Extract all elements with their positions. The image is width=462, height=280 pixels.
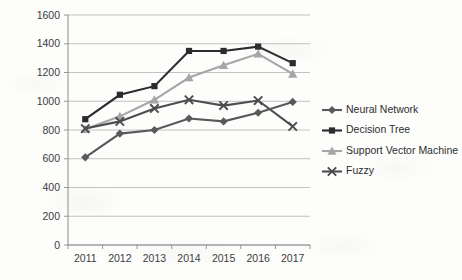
- square-marker-icon: [186, 48, 192, 54]
- diamond-marker-icon: [289, 98, 297, 106]
- square-marker-icon: [82, 116, 88, 122]
- diamond-marker-icon: [150, 126, 158, 134]
- x-axis-tick-label: 2011: [74, 252, 97, 264]
- x-axis-tick-label: 2015: [212, 252, 236, 264]
- legend-item-fuzzy[interactable]: Fuzzy: [322, 164, 375, 176]
- triangle-marker-icon: [150, 95, 159, 103]
- chart-legend: Neural NetworkDecision TreeSupport Vecto…: [322, 103, 458, 177]
- square-marker-icon: [151, 83, 157, 89]
- diamond-marker-icon: [219, 117, 227, 125]
- y-axis-tick-label: 400: [42, 181, 60, 193]
- y-axis-tick-label: 200: [42, 210, 60, 222]
- chart-canvas: 02004006008001000120014001600 2011201220…: [0, 0, 462, 280]
- diamond-marker-icon: [185, 114, 193, 122]
- x-axis-tick-labels: 2011201220132014201520162017: [74, 252, 305, 264]
- square-marker-icon: [220, 48, 226, 54]
- legend-label: Neural Network: [346, 103, 419, 115]
- y-axis-tick-label: 1400: [37, 37, 61, 49]
- square-marker-icon: [290, 60, 296, 66]
- x-axis-tick-label: 2016: [246, 252, 270, 264]
- triangle-marker-icon: [288, 69, 297, 77]
- y-axis-tick-label: 800: [42, 124, 60, 136]
- legend-label: Decision Tree: [346, 123, 410, 135]
- square-marker-icon: [329, 127, 335, 133]
- legend-item-neural-network[interactable]: Neural Network: [322, 103, 419, 115]
- x-axis-tick-label: 2014: [177, 252, 201, 264]
- y-axis-tick-label: 1000: [37, 95, 61, 107]
- data-series-group: [81, 44, 298, 162]
- y-axis-tick-label: 600: [42, 152, 60, 164]
- square-marker-icon: [117, 92, 123, 98]
- y-axis-tick-labels: 02004006008001000120014001600: [37, 9, 68, 251]
- x-axis-tickmarks: [68, 245, 310, 249]
- diamond-marker-icon: [328, 106, 336, 114]
- y-axis-tick-label: 0: [54, 239, 60, 251]
- legend-label: Fuzzy: [346, 164, 375, 176]
- square-marker-icon: [255, 44, 261, 50]
- legend-label: Support Vector Machine: [346, 144, 458, 156]
- legend-item-support-vector-machine[interactable]: Support Vector Machine: [322, 144, 458, 156]
- diamond-marker-icon: [254, 109, 262, 117]
- x-axis-tick-label: 2012: [108, 252, 132, 264]
- x-axis-tick-label: 2013: [143, 252, 167, 264]
- x-marker-icon: [289, 122, 297, 130]
- legend-item-decision-tree[interactable]: Decision Tree: [322, 123, 410, 135]
- y-axis-tick-label: 1600: [37, 9, 61, 21]
- y-axis-tick-label: 1200: [37, 66, 61, 78]
- triangle-marker-icon: [254, 49, 263, 57]
- line-chart-figure: 02004006008001000120014001600 2011201220…: [0, 0, 462, 280]
- x-axis-tick-label: 2017: [281, 252, 305, 264]
